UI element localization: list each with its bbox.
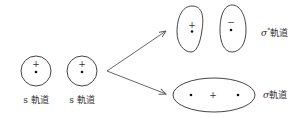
nucleus-dot-icon [191, 30, 194, 33]
s-orbital-1-label: s 軌道 [23, 94, 48, 105]
antibonding-lobe-right-sign: − [227, 17, 235, 27]
orbital-combination-diagram: + s 軌道 + s 軌道 + − σ*軌道 + σ軌道 [0, 0, 302, 117]
antibonding-orbital: + − [177, 5, 246, 52]
bonding-orbital-label: σ軌道 [263, 89, 287, 100]
nucleus-dot-icon [35, 71, 38, 74]
bonding-orbital-sign: + [209, 90, 217, 100]
antibonding-orbital-label: σ*軌道 [261, 26, 288, 38]
nucleus-dot-icon [237, 94, 240, 97]
antibonding-lobe-right [220, 5, 246, 52]
s-orbital-1: + [21, 56, 51, 86]
s-orbital-2: + [67, 56, 97, 86]
bonding-orbital: + [173, 78, 255, 112]
nucleus-dot-icon [190, 94, 193, 97]
arrow-to-bonding-icon [107, 71, 166, 94]
s-orbital-1-sign: + [32, 59, 40, 69]
nucleus-dot-icon [81, 71, 84, 74]
s-orbital-2-sign: + [78, 59, 86, 69]
nucleus-dot-icon [230, 29, 233, 32]
s-orbital-2-label: s 軌道 [69, 94, 94, 105]
antibonding-lobe-left-sign: + [188, 20, 196, 30]
arrow-to-antibonding-icon [107, 31, 166, 71]
